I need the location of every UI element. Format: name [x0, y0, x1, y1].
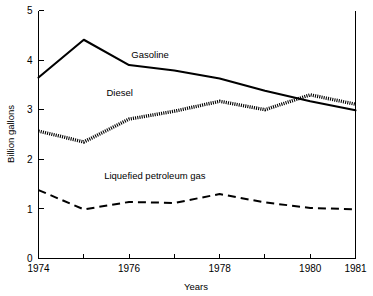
chart-background	[0, 0, 373, 296]
y-tick-label: 2	[27, 154, 33, 165]
y-tick-label: 4	[27, 55, 33, 66]
x-tick-label: 1980	[299, 263, 322, 274]
x-tick-label: 1974	[27, 263, 50, 274]
y-tick-label: 5	[27, 5, 33, 16]
y-tick-label: 3	[27, 104, 33, 115]
series-label-gasoline: Gasoline	[131, 49, 169, 60]
line-chart: 012345 19741976197819801981 GasolineDies…	[0, 0, 373, 296]
y-tick-label: 1	[27, 204, 33, 215]
series-label-diesel: Diesel	[106, 87, 132, 98]
x-tick-label: 1978	[209, 263, 232, 274]
x-axis-title: Years	[184, 281, 208, 292]
x-tick-label: 1976	[118, 263, 141, 274]
x-tick-label: 1981	[344, 263, 367, 274]
y-axis-title: Billion gallons	[5, 105, 16, 163]
series-label-liquefied-petroleum-gas: Liquefied petroleum gas	[104, 170, 206, 181]
chart-container: 012345 19741976197819801981 GasolineDies…	[0, 0, 373, 296]
